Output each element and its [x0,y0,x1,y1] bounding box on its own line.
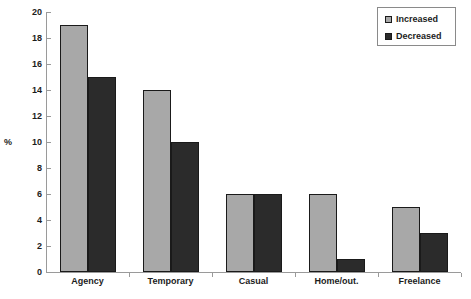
y-axis-label: % [4,138,12,147]
y-axis-tick-label: 20 [16,8,42,17]
x-axis-label-casual: Casual [212,276,295,286]
legend-label-increased: Increased [396,14,438,24]
y-axis-tick-label: 0 [16,268,42,277]
legend-label-decreased: Decreased [396,31,442,41]
bar-chart: 02468101214161820 % AgencyTemporaryCasua… [0,0,471,299]
bar-casual-increased [226,194,254,272]
bar-temporary-increased [143,90,171,272]
y-axis-tick-labels: 02468101214161820 [8,0,42,299]
y-axis-tick-label: 8 [16,164,42,173]
y-axis-tick-mark [47,272,51,273]
y-axis-tick-label: 6 [16,190,42,199]
legend-swatch-decreased [385,33,392,40]
bar-casual-decreased [254,194,282,272]
bar-home-out-increased [309,194,337,272]
bar-home-out-decreased [337,259,365,272]
bar-agency-increased [60,25,88,272]
y-axis-tick-label: 14 [16,86,42,95]
x-axis-label-home-out: Home/out. [295,276,378,286]
bar-temporary-decreased [171,142,199,272]
y-axis-tick-label: 16 [16,60,42,69]
y-axis-tick-label: 12 [16,112,42,121]
chart-legend: Increased Decreased [377,7,456,46]
legend-item-increased: Increased [385,14,438,24]
bar-freelance-decreased [420,233,448,272]
y-axis-tick-label: 18 [16,34,42,43]
x-axis-line [46,272,461,273]
x-axis-tick-mark [461,273,462,277]
x-axis-label-agency: Agency [46,276,129,286]
y-axis-tick-label: 4 [16,216,42,225]
bar-agency-decreased [88,77,116,272]
plot-area [46,12,461,272]
legend-swatch-increased [385,16,392,23]
legend-item-decreased: Decreased [385,31,442,41]
bar-freelance-increased [392,207,420,272]
x-axis-label-freelance: Freelance [378,276,461,286]
x-axis-label-temporary: Temporary [129,276,212,286]
y-axis-tick-label: 2 [16,242,42,251]
y-axis-tick-label: 10 [16,138,42,147]
